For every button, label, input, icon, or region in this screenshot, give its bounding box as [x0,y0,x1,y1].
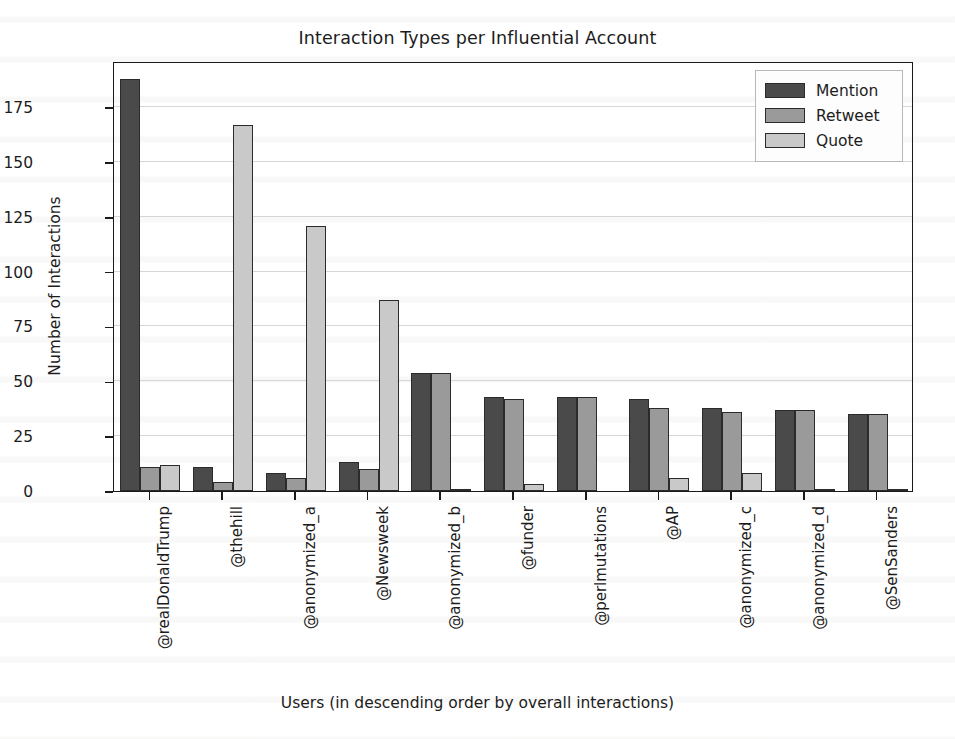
bar-mention [266,473,286,491]
bar-mention [629,399,649,491]
legend-label: Retweet [816,107,880,125]
y-tick-label: 50 [0,373,33,391]
legend-label: Quote [816,132,863,150]
bar-mention [339,462,359,491]
legend-item-retweet: Retweet [765,103,893,128]
bar-mention [484,397,504,491]
x-tick-mark [730,492,732,500]
mention-swatch-icon [765,83,805,98]
x-tick-mark [876,492,878,500]
x-axis-label: Users (in descending order by overall in… [0,694,955,712]
y-tick-label: 175 [0,99,33,117]
bar-retweet [577,397,597,491]
bar-retweet [504,399,524,491]
bar-quote [888,489,908,491]
x-tick-label: @realDonaldTrump [155,506,173,649]
y-tick-label: 100 [0,264,33,282]
y-tick-label: 125 [0,209,33,227]
y-tick-mark [105,491,113,493]
bar-quote [815,489,835,491]
y-tick-mark [105,162,113,164]
bar-group [411,63,471,491]
bar-mention [120,79,140,491]
legend-item-mention: Mention [765,78,893,103]
y-tick-label: 0 [0,483,33,501]
y-axis-label: Number of Interactions [46,71,64,501]
bar-retweet [286,478,306,491]
chart-legend: MentionRetweetQuote [755,70,903,162]
x-tick-mark [439,492,441,500]
x-tick-mark [512,492,514,500]
y-tick-mark [105,382,113,384]
retweet-swatch-icon [765,108,805,123]
y-tick-mark [105,272,113,274]
x-tick-mark [658,492,660,500]
x-tick-label: @anonymized_b [446,506,464,630]
bar-retweet [140,467,160,491]
bar-group [557,63,617,491]
x-tick-label: @thehill [228,506,246,568]
y-tick-label: 150 [0,154,33,172]
legend-label: Mention [816,82,878,100]
bar-retweet [649,408,669,491]
bar-mention [775,410,795,491]
x-tick-mark [149,492,151,500]
bar-quote [160,465,180,491]
y-tick-mark [105,217,113,219]
bar-mention [193,467,213,491]
bar-mention [848,414,868,491]
bar-chart-figure: Interaction Types per Influential Accoun… [0,0,955,739]
x-tick-label: @funder [519,506,537,570]
bar-group [266,63,326,491]
chart-title: Interaction Types per Influential Accoun… [0,28,955,48]
bar-retweet [868,414,888,491]
x-tick-label: @Newsweek [374,506,392,601]
bar-group [193,63,253,491]
x-tick-mark [294,492,296,500]
x-tick-mark [803,492,805,500]
bar-group [484,63,544,491]
x-tick-label: @perlmutations [592,506,610,626]
legend-item-quote: Quote [765,128,893,153]
bar-retweet [795,410,815,491]
bar-retweet [722,412,742,491]
x-tick-mark [585,492,587,500]
x-tick-label: @AP [664,506,682,540]
bar-quote [669,478,689,491]
quote-swatch-icon [765,133,805,148]
bar-mention [411,373,431,491]
x-tick-mark [367,492,369,500]
y-tick-mark [105,436,113,438]
x-tick-label: @anonymized_a [301,506,319,629]
bar-retweet [431,373,451,491]
y-tick-mark [105,327,113,329]
bar-retweet [213,482,233,491]
bar-quote [379,300,399,491]
bar-group [702,63,762,491]
bar-quote [524,484,544,491]
bar-group [120,63,180,491]
bar-quote [233,125,253,491]
x-tick-label: @anonymized_d [810,506,828,630]
bar-quote [742,473,762,491]
bar-quote [306,226,326,491]
bar-mention [702,408,722,491]
bar-group [629,63,689,491]
x-tick-label: @SenSanders [883,506,901,610]
bar-group [339,63,399,491]
bar-retweet [359,469,379,491]
y-tick-label: 25 [0,428,33,446]
bar-quote [451,489,471,491]
y-tick-label: 75 [0,318,33,336]
bar-mention [557,397,577,491]
y-tick-mark [105,107,113,109]
x-tick-label: @anonymized_c [737,506,755,628]
x-tick-mark [221,492,223,500]
